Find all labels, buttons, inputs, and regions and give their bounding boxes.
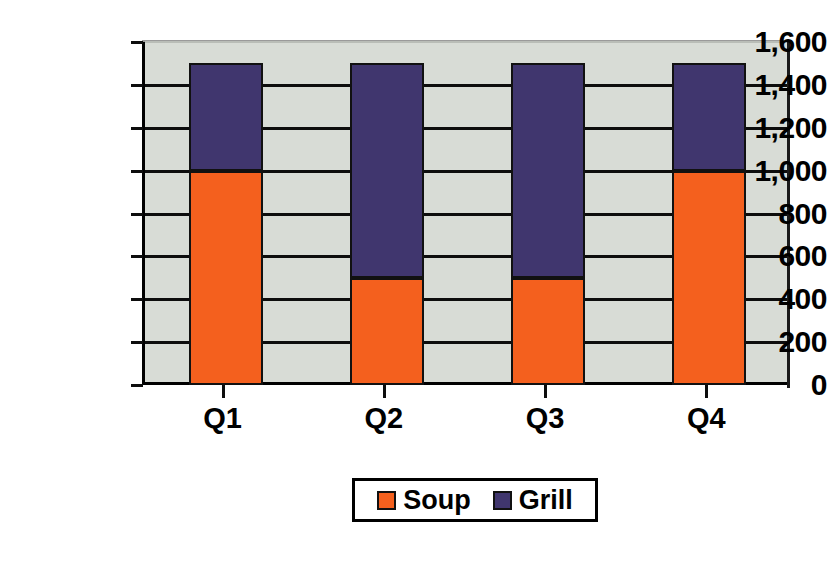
y-axis-tick — [131, 84, 143, 87]
plot-area — [142, 42, 787, 385]
x-axis-label-q4: Q4 — [651, 404, 761, 433]
x-axis-label-q3: Q3 — [490, 404, 600, 433]
gridline — [145, 41, 787, 43]
bar-segment-soup-q2[interactable] — [350, 278, 424, 385]
y-axis-label: 1,600 — [703, 27, 827, 57]
y-axis-label: 1,400 — [703, 70, 827, 100]
legend-label-soup: Soup — [403, 487, 471, 514]
y-axis-tick — [131, 213, 143, 216]
x-axis-tick — [383, 385, 386, 398]
x-axis-label-q1: Q1 — [168, 404, 278, 433]
y-axis-label: 400 — [703, 284, 827, 314]
y-axis-tick — [131, 384, 143, 387]
y-axis-tick — [131, 298, 143, 301]
bar-segment-soup-q3[interactable] — [511, 278, 585, 385]
bar-segment-grill-q3[interactable] — [511, 63, 585, 277]
y-axis-label: 0 — [703, 370, 827, 400]
legend-swatch-soup — [377, 491, 396, 510]
x-axis-label-q2: Q2 — [329, 404, 439, 433]
bar-segment-soup-q1[interactable] — [189, 171, 263, 385]
y-axis-label: 600 — [703, 241, 827, 271]
legend-label-grill: Grill — [519, 487, 573, 514]
legend-item-soup[interactable]: Soup — [377, 487, 471, 514]
bar-segment-grill-q2[interactable] — [350, 63, 424, 277]
x-axis-tick — [544, 385, 547, 398]
stacked-bar-chart: 1,6001,4001,2001,0008006004002000 Q1Q2Q3… — [0, 0, 827, 562]
y-axis-tick — [131, 170, 143, 173]
y-axis-tick — [131, 127, 143, 130]
y-axis-label: 1,000 — [703, 156, 827, 186]
bar-segment-grill-q1[interactable] — [189, 63, 263, 170]
y-axis-label: 200 — [703, 327, 827, 357]
x-axis-tick — [705, 385, 708, 398]
y-axis-label: 800 — [703, 199, 827, 229]
y-axis-tick — [131, 255, 143, 258]
legend-item-grill[interactable]: Grill — [493, 487, 573, 514]
y-axis-label: 1,200 — [703, 113, 827, 143]
y-axis-tick — [131, 341, 143, 344]
x-axis-tick — [222, 385, 225, 398]
y-axis-tick — [131, 41, 143, 44]
chart-legend: Soup Grill — [352, 478, 598, 522]
legend-swatch-grill — [493, 491, 512, 510]
